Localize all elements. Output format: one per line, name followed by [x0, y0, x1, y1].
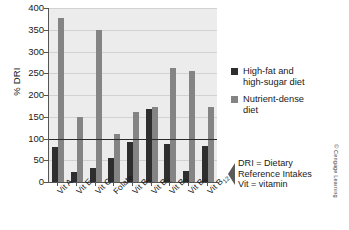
- annotation-line-1: DRI = Dietary: [238, 158, 312, 169]
- annotation-line-3: Vit = vitamin: [238, 179, 312, 190]
- plot-area: [48, 8, 217, 183]
- y-tick-label: 400: [16, 3, 44, 13]
- annotation-text: DRI = Dietary Reference Intakes Vit = vi…: [238, 158, 312, 190]
- y-tick-label: 200: [16, 90, 44, 100]
- bar-group: [49, 8, 68, 182]
- legend-swatch: [231, 96, 238, 103]
- bar: [152, 107, 158, 182]
- copyright-credit: © Cengage Learning: [333, 139, 339, 203]
- bar: [189, 71, 195, 182]
- bar: [208, 107, 214, 182]
- y-tick-label: 0: [16, 177, 44, 187]
- y-tick-label: 350: [16, 25, 44, 35]
- dri-reference-line: [49, 139, 217, 140]
- bar-group: [198, 8, 217, 182]
- bar: [133, 112, 139, 182]
- legend-label: High-fat andhigh-sugar diet: [243, 66, 305, 87]
- bar: [96, 30, 102, 182]
- bar: [58, 18, 64, 182]
- y-tick-label: 50: [16, 155, 44, 165]
- bar: [170, 68, 176, 182]
- bar-group: [86, 8, 105, 182]
- bar-group: [124, 8, 143, 182]
- bar-group: [142, 8, 161, 182]
- bar-group: [68, 8, 87, 182]
- y-tick-label: 300: [16, 47, 44, 57]
- legend-item: High-fat andhigh-sugar diet: [231, 66, 346, 87]
- legend-label: Nutrient-densediet: [243, 94, 304, 115]
- y-tick-label: 150: [16, 112, 44, 122]
- figure-container: % DRI 400350300250200150100500 Vit AVit …: [0, 0, 349, 230]
- legend-item: Nutrient-densediet: [231, 94, 346, 115]
- annotation-line-2: Reference Intakes: [238, 169, 312, 180]
- chart-legend: High-fat andhigh-sugar dietNutrient-dens…: [231, 66, 346, 122]
- bar-group: [161, 8, 180, 182]
- annotation-callout: DRI = Dietary Reference Intakes Vit = vi…: [228, 158, 312, 190]
- y-tick-label: 250: [16, 68, 44, 78]
- y-axis-ticks: 400350300250200150100500: [14, 0, 44, 230]
- y-tick-label: 100: [16, 134, 44, 144]
- bar-group: [180, 8, 199, 182]
- arrow-left-icon: [228, 163, 235, 185]
- legend-swatch: [231, 68, 238, 75]
- bar-group: [105, 8, 124, 182]
- bar: [77, 117, 83, 182]
- bar: [114, 134, 120, 182]
